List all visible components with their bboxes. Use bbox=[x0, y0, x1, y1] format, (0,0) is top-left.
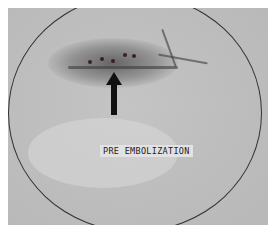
contrast-spot bbox=[132, 54, 136, 58]
image-label: PRE EMBOLIZATION bbox=[100, 145, 193, 157]
contrast-spot bbox=[123, 53, 127, 57]
arrow-shaft bbox=[111, 83, 117, 115]
contrast-spot bbox=[88, 60, 92, 64]
contrast-spot bbox=[100, 57, 104, 61]
vessel bbox=[68, 66, 178, 69]
angiogram-image: PRE EMBOLIZATION bbox=[8, 8, 268, 225]
contrast-spot bbox=[111, 59, 115, 63]
